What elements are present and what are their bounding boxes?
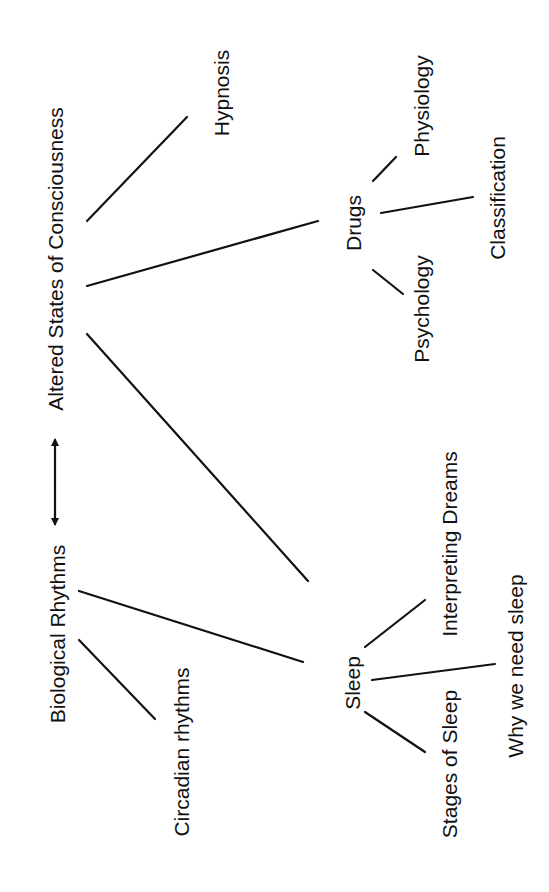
- node-why-we-need-sleep: Why we need sleep: [504, 574, 527, 757]
- edge-drugs-to-psychology: [373, 270, 403, 294]
- nodes: Altered States of Consciousness Hypnosis…: [44, 50, 527, 838]
- node-interpreting-dreams: Interpreting Dreams: [438, 451, 461, 637]
- node-stages-of-sleep: Stages of Sleep: [438, 690, 461, 838]
- edge-biological-rhythms-to-sleep: [79, 591, 303, 662]
- node-biological-rhythms: Biological Rhythms: [46, 545, 69, 724]
- node-psychology: Psychology: [410, 255, 433, 363]
- node-hypnosis: Hypnosis: [210, 50, 233, 136]
- node-classification: Classification: [486, 136, 509, 260]
- edge-altered-states-to-sleep: [87, 334, 308, 581]
- edge-biological-rhythms-to-circadian: [79, 640, 155, 719]
- edge-altered-states-to-hypnosis: [87, 117, 187, 221]
- node-altered-states-of-consciousness: Altered States of Consciousness: [44, 107, 67, 411]
- edge-sleep-to-interpreting-dreams: [365, 600, 425, 647]
- concept-map: Altered States of Consciousness Hypnosis…: [0, 0, 549, 892]
- edges: [55, 117, 495, 752]
- node-drugs: Drugs: [342, 195, 365, 251]
- node-physiology: Physiology: [410, 55, 433, 157]
- edge-sleep-to-stages-of-sleep: [365, 712, 425, 752]
- edge-sleep-to-why-we-need-sleep: [372, 664, 495, 680]
- edge-drugs-to-physiology: [373, 157, 396, 181]
- node-sleep: Sleep: [341, 656, 364, 710]
- edge-altered-states-to-drugs: [87, 221, 318, 286]
- edge-drugs-to-classification: [381, 197, 473, 213]
- node-circadian-rhythms: Circadian rhythms: [170, 667, 193, 836]
